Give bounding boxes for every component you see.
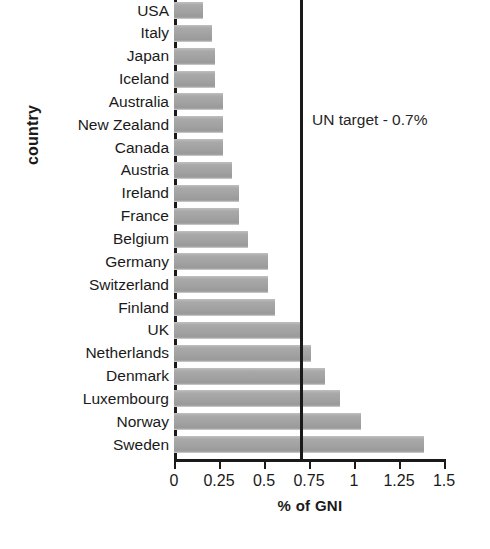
category-label: Canada xyxy=(115,138,169,158)
category-label: Netherlands xyxy=(85,343,169,363)
x-tick-label: 1.5 xyxy=(433,472,455,490)
category-label: Norway xyxy=(116,412,169,432)
category-axis-labels: USAItalyJapanIcelandAustraliaNew Zealand… xyxy=(0,0,171,460)
category-label: Sweden xyxy=(113,435,169,455)
x-tick-label: 0.75 xyxy=(293,472,324,490)
category-label: Austria xyxy=(121,160,169,180)
category-label: Australia xyxy=(109,92,169,112)
bar xyxy=(174,253,268,270)
x-tick-label: 0 xyxy=(170,472,179,490)
category-label: Finland xyxy=(118,298,169,318)
category-label: Germany xyxy=(105,252,169,272)
category-label: UK xyxy=(147,320,169,340)
category-label: Luxembourg xyxy=(83,389,169,409)
bar xyxy=(174,322,300,339)
bar xyxy=(174,116,223,133)
x-axis-title: % of GNI xyxy=(174,497,446,514)
category-label: Japan xyxy=(127,46,169,66)
bar xyxy=(174,139,223,156)
bar xyxy=(174,25,212,42)
bar xyxy=(174,345,311,362)
category-label: Italy xyxy=(141,23,169,43)
bar xyxy=(174,413,361,430)
plot-area: UN target - 0.7% xyxy=(174,0,490,460)
category-label: Ireland xyxy=(122,183,169,203)
bar xyxy=(174,208,239,225)
category-label: Belgium xyxy=(113,229,169,249)
bar-chart: country USAItalyJapanIcelandAustraliaNew… xyxy=(0,0,490,549)
x-tick-mark xyxy=(174,459,176,469)
x-tick-label: 1.25 xyxy=(383,472,414,490)
bar xyxy=(174,185,239,202)
bar xyxy=(174,2,203,19)
category-label: Switzerland xyxy=(89,275,169,295)
x-tick-mark xyxy=(354,459,356,469)
category-label: Denmark xyxy=(106,366,169,386)
x-tick-label: 0.25 xyxy=(203,472,234,490)
category-label: New Zealand xyxy=(78,115,169,135)
category-label: France xyxy=(121,206,169,226)
x-tick-mark xyxy=(309,459,311,469)
bar xyxy=(174,368,325,385)
category-label: Iceland xyxy=(119,69,169,89)
x-tick-label: 1 xyxy=(350,472,359,490)
x-tick-mark xyxy=(264,459,266,469)
bar xyxy=(174,299,275,316)
bar xyxy=(174,93,223,110)
bar xyxy=(174,231,248,248)
x-tick-mark xyxy=(399,459,401,469)
un-target-annotation-label: UN target - 0.7% xyxy=(312,111,427,129)
un-target-line xyxy=(300,0,303,460)
category-label: USA xyxy=(137,1,169,21)
x-tick-mark xyxy=(219,459,221,469)
bar xyxy=(174,162,232,179)
bar xyxy=(174,48,215,65)
bar xyxy=(174,390,340,407)
bar xyxy=(174,276,268,293)
x-tick-label: 0.5 xyxy=(253,472,275,490)
x-tick-mark xyxy=(444,459,446,469)
bar xyxy=(174,71,215,88)
